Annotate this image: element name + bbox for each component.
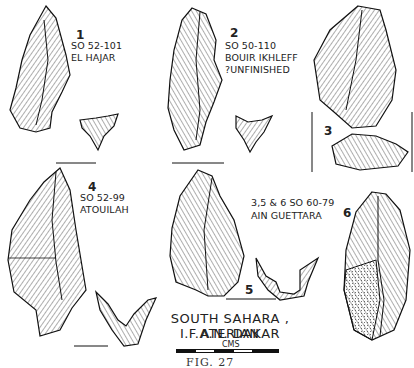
- specimen-2-drawing: [168, 8, 272, 163]
- specimen-2-number: 2: [230, 26, 238, 40]
- group-catalog-label: 3,5 & 6 SO 60-79: [251, 197, 334, 209]
- caption-institution: I.F.A.N. DAKAR: [160, 326, 300, 341]
- specimen-6-drawing: [344, 192, 410, 340]
- specimen-3-number: 3: [324, 124, 332, 138]
- scale-bar: [176, 349, 279, 353]
- specimen-6-number: 6: [343, 206, 351, 220]
- specimen-2-site: BOUIR IKHLEFF: [225, 52, 298, 64]
- figure-number: FIG. 27: [186, 356, 234, 368]
- specimen-5-number: 5: [245, 283, 253, 297]
- artifact-plate: 1 SO 52-101 EL HAJAR 2 SO 50-110 BOUIR I…: [0, 0, 414, 368]
- specimen-2-catalog: SO 50-110: [225, 40, 276, 52]
- specimen-4-catalog: SO 52-99: [80, 192, 125, 204]
- specimen-4-site: ATOUILAH: [80, 204, 129, 216]
- specimen-1-site: EL HAJAR: [71, 52, 116, 64]
- specimen-1-catalog: SO 52-101: [71, 40, 122, 52]
- specimen-5-drawing: [170, 170, 318, 300]
- specimen-2-note: ?UNFINISHED: [225, 64, 290, 76]
- scale-label: CMS: [222, 340, 240, 349]
- specimen-1-drawing: [10, 6, 118, 163]
- group-site-label: AIN GUETTARA: [251, 210, 322, 222]
- specimen-3-drawing: [312, 6, 412, 172]
